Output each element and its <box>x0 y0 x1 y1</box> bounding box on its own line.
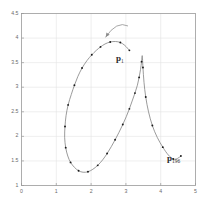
x-tick-label: 2 <box>90 189 93 194</box>
label-p1: p1 <box>116 48 124 64</box>
data-point <box>138 76 140 78</box>
chart-plot <box>0 0 204 205</box>
data-point <box>106 153 108 155</box>
data-point <box>141 61 143 63</box>
data-point <box>64 126 66 128</box>
label-p196-subscript: 196 <box>172 158 180 164</box>
data-point <box>73 84 75 86</box>
y-tick-label: 3 <box>2 85 19 90</box>
data-point <box>128 49 130 51</box>
figure-container: 012345 11.522.533.544.5 p1 p196 <box>0 0 204 205</box>
x-tick-label: 5 <box>194 189 197 194</box>
data-point <box>70 161 72 163</box>
label-p1-subscript: 1 <box>121 58 124 64</box>
y-tick-label: 4.5 <box>2 11 19 16</box>
data-point <box>100 46 102 48</box>
x-tick-label: 0 <box>20 189 23 194</box>
data-point <box>109 41 111 43</box>
data-point <box>162 146 164 148</box>
x-tick-label: 4 <box>159 189 162 194</box>
data-point <box>97 164 99 166</box>
data-point <box>119 42 121 44</box>
data-point <box>114 139 116 141</box>
y-tick-label: 3.5 <box>2 60 19 65</box>
y-tick-label: 2.5 <box>2 109 19 114</box>
annotation-arrow <box>106 24 128 37</box>
data-point <box>78 170 80 172</box>
y-tick-label: 1 <box>2 183 19 188</box>
data-point <box>134 92 136 94</box>
data-point <box>145 96 147 98</box>
data-point <box>151 125 153 127</box>
data-point <box>128 108 130 110</box>
data-point <box>142 67 144 69</box>
data-point <box>81 67 83 69</box>
data-point <box>122 124 124 126</box>
x-tick-label: 1 <box>55 189 58 194</box>
y-tick-label: 2 <box>2 134 19 139</box>
y-tick-label: 4 <box>2 35 19 40</box>
data-point <box>65 147 67 149</box>
data-point <box>180 155 182 157</box>
data-point <box>91 54 93 56</box>
data-point <box>87 171 89 173</box>
label-p196: p196 <box>167 148 180 164</box>
x-tick-label: 3 <box>124 189 127 194</box>
y-tick-label: 1.5 <box>2 158 19 163</box>
data-point <box>67 104 69 106</box>
